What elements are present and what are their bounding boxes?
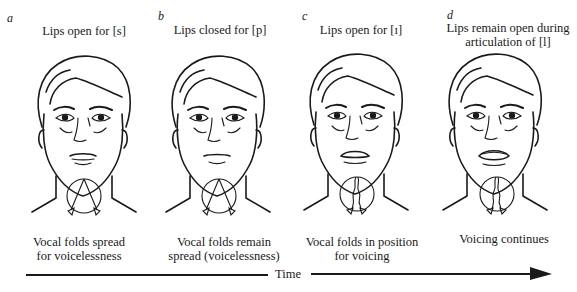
arrowhead-icon [530, 267, 552, 280]
time-axis-label: Time [275, 267, 301, 281]
timeline-arrow [0, 0, 577, 292]
